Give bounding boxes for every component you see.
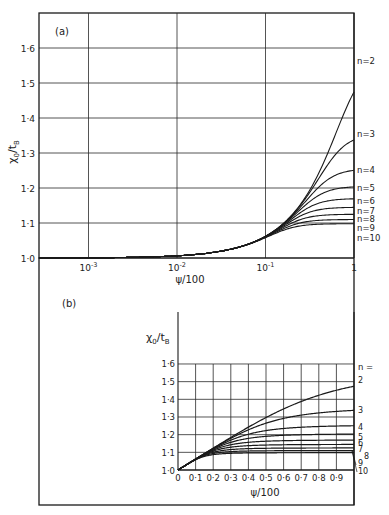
x-tick-label: 0·4 <box>242 473 256 483</box>
panel-a: (a) 1·01·11·21·31·41·51·6 10-310-210-11 … <box>6 13 380 285</box>
curve-label: n=3 <box>357 129 375 139</box>
panel-a-label: (a) <box>55 26 69 37</box>
curve-n-7 <box>39 207 354 258</box>
curve-n-10 <box>39 224 354 258</box>
y-tick-label: 1·4 <box>161 395 175 405</box>
panel-b: (b) χ0/tB 1·01·11·21·31·41·51·6 00·10·20… <box>62 298 373 505</box>
panel-a-curve-labels: n=2n=3n=4n=5n=6n=7n=8n=9n=10 <box>357 56 380 243</box>
curve-label: 4 <box>358 423 363 432</box>
curve-label: n=6 <box>357 196 375 206</box>
curve-label: n=10 <box>357 233 380 243</box>
x-tick-label: 0·9 <box>330 473 344 483</box>
x-tick-label: 0·6 <box>277 473 291 483</box>
y-tick-label: 1·3 <box>21 149 35 159</box>
curve-label: n=2 <box>357 56 375 66</box>
panel-b-x-tick-labels: 00·10·20·30·40·50·60·70·80·9 <box>175 473 343 483</box>
curve-n-2 <box>39 92 354 258</box>
y-tick-label: 1·6 <box>161 359 175 369</box>
curve-label: 8 <box>364 452 369 461</box>
curve-n-3 <box>39 140 354 258</box>
curve-label: 3 <box>358 406 363 415</box>
panel-a-x-tick-labels: 10-310-210-11 <box>80 261 357 273</box>
y-tick-label: 1·2 <box>161 430 175 440</box>
svg-text:χ0/tB: χ0/tB <box>146 331 170 346</box>
y-tick-label: 1·5 <box>21 79 35 89</box>
y-tick-label: 1·0 <box>161 466 175 476</box>
panel-a-y-tick-labels: 1·01·11·21·31·41·51·6 <box>21 44 36 264</box>
y-tick-label: 1·3 <box>161 412 175 422</box>
x-tick-label: 0·5 <box>259 473 273 483</box>
y-tick-label: 1·6 <box>21 44 36 54</box>
x-tick-label: 0·7 <box>294 473 308 483</box>
x-tick-label: 0·8 <box>312 473 326 483</box>
curve-label: n=9 <box>357 223 375 233</box>
y-tick-label: 1·5 <box>161 377 175 387</box>
y-tick-label: 1·0 <box>21 254 36 264</box>
curve-label: n=5 <box>357 183 375 193</box>
panel-a-curves <box>39 92 354 258</box>
x-tick-label: 1 <box>351 263 357 273</box>
curve-n-4 <box>39 170 354 258</box>
figure: (a) 1·01·11·21·31·41·51·6 10-310-210-11 … <box>0 0 389 515</box>
curve-label: n=4 <box>357 165 375 175</box>
curve-label: 10 <box>358 467 368 476</box>
x-tick-label: 10-2 <box>168 261 186 273</box>
x-tick-label: 10-3 <box>80 261 98 273</box>
x-tick-label: 0·1 <box>189 473 203 483</box>
curve-label: 2 <box>358 376 363 385</box>
curve-n-6 <box>39 199 354 258</box>
curve-label: 7 <box>358 445 363 454</box>
panel-b-y-tick-labels: 1·01·11·21·31·41·51·6 <box>161 359 175 475</box>
svg-text:χ0/tB: χ0/tB <box>6 140 21 164</box>
panel-a-x-axis-label: ψ/100 <box>175 274 204 285</box>
panel-b-legend-title: n = <box>358 362 373 372</box>
outer-frame <box>39 13 354 505</box>
x-tick-label: 10-1 <box>257 261 275 273</box>
panel-b-x-axis-label: ψ/100 <box>250 487 279 498</box>
curve-n-8 <box>39 214 354 258</box>
y-tick-label: 1·2 <box>21 184 35 194</box>
x-tick-label: 0·3 <box>224 473 238 483</box>
y-tick-label: 1·1 <box>161 448 175 458</box>
y-tick-label: 1·1 <box>21 219 35 229</box>
panel-a-y-axis-label: χ0/tB <box>6 140 21 164</box>
panel-b-y-axis-label: χ0/tB <box>146 331 170 346</box>
x-tick-label: 0·2 <box>206 473 220 483</box>
y-tick-label: 1·4 <box>21 114 36 124</box>
panel-b-label: (b) <box>62 298 76 309</box>
x-tick-label: 0 <box>175 473 180 483</box>
